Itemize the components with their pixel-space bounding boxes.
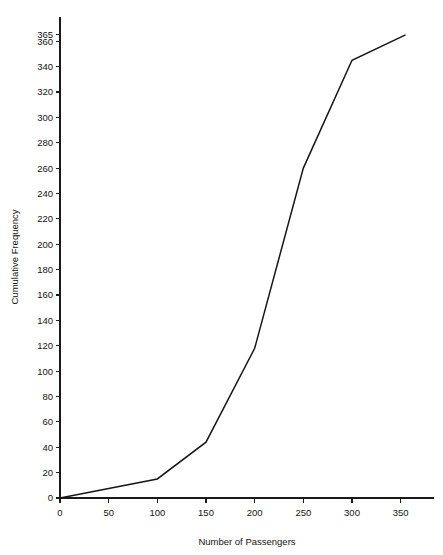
y-tick-label-180: 180 bbox=[37, 264, 53, 275]
x-tick-label-50: 50 bbox=[103, 507, 114, 518]
y-tick-label-240: 240 bbox=[37, 188, 53, 199]
y-tick-label-260: 260 bbox=[37, 163, 53, 174]
y-axis-title: Cumulative Frequency bbox=[9, 209, 20, 304]
y-tick-label-20: 20 bbox=[42, 467, 53, 478]
y-tick-label-320: 320 bbox=[37, 86, 53, 97]
x-tick-label-0: 0 bbox=[57, 507, 62, 518]
y-tick-label-60: 60 bbox=[42, 416, 53, 427]
x-tick-label-150: 150 bbox=[198, 507, 214, 518]
y-tick-label-365: 365 bbox=[37, 29, 53, 40]
y-tick-label-220: 220 bbox=[37, 213, 53, 224]
x-axis-tick-labels: 050100150200250300350 bbox=[57, 507, 408, 518]
y-tick-label-300: 300 bbox=[37, 112, 53, 123]
y-tick-label-340: 340 bbox=[37, 61, 53, 72]
y-tick-label-40: 40 bbox=[42, 442, 53, 453]
y-axis-ticks bbox=[56, 35, 60, 498]
x-tick-label-100: 100 bbox=[149, 507, 165, 518]
y-tick-label-160: 160 bbox=[37, 289, 53, 300]
y-tick-label-280: 280 bbox=[37, 137, 53, 148]
x-axis-ticks bbox=[60, 498, 401, 503]
cumulative-frequency-chart: 0204060801001201401601802002202402602803… bbox=[0, 0, 443, 555]
y-tick-label-100: 100 bbox=[37, 366, 53, 377]
y-axis: 0204060801001201401601802002202402602803… bbox=[37, 17, 60, 503]
x-tick-label-250: 250 bbox=[295, 507, 311, 518]
data-series-group bbox=[60, 35, 406, 498]
y-axis-tick-labels: 0204060801001201401601802002202402602803… bbox=[37, 29, 53, 503]
chart-canvas: 0204060801001201401601802002202402602803… bbox=[0, 0, 443, 555]
x-tick-label-200: 200 bbox=[247, 507, 263, 518]
x-axis: 050100150200250300350 bbox=[57, 498, 434, 518]
x-tick-label-300: 300 bbox=[344, 507, 360, 518]
series-line-cumulative-frequency bbox=[60, 35, 406, 498]
y-tick-label-200: 200 bbox=[37, 239, 53, 250]
y-tick-label-0: 0 bbox=[48, 492, 53, 503]
x-axis-title: Number of Passengers bbox=[198, 536, 295, 547]
x-tick-label-350: 350 bbox=[393, 507, 409, 518]
y-tick-label-80: 80 bbox=[42, 391, 53, 402]
y-tick-label-140: 140 bbox=[37, 315, 53, 326]
y-tick-label-120: 120 bbox=[37, 340, 53, 351]
